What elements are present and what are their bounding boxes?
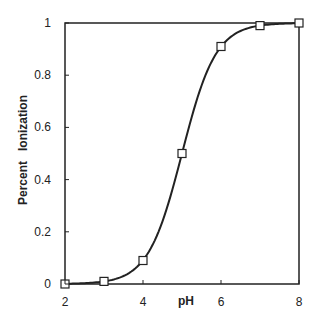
data-markers (61, 19, 303, 288)
x-tick-label: 4 (140, 295, 147, 309)
y-tick-label: 0.4 (34, 173, 51, 187)
y-tick-label: 0.6 (34, 120, 51, 134)
x-tick-label: 6 (218, 295, 225, 309)
y-tick-label: 1 (44, 16, 51, 30)
data-point-marker (139, 257, 147, 265)
data-point-marker (178, 150, 186, 158)
data-point-marker (217, 42, 225, 50)
data-point-marker (256, 22, 264, 30)
y-tick-label: 0.2 (34, 225, 51, 239)
y-tick-label: 0 (44, 277, 51, 291)
ionization-chart: 00.20.40.60.81 2468 pH Percent Ionizatio… (0, 0, 316, 325)
y-axis-ticks: 00.20.40.60.81 (34, 16, 69, 291)
x-tick-label: 2 (62, 295, 69, 309)
y-axis-label: Percent Ionization (16, 95, 30, 205)
data-point-marker (100, 277, 108, 285)
y-tick-label: 0.8 (34, 68, 51, 82)
data-point-marker (295, 19, 303, 27)
x-tick-label: 8 (296, 295, 303, 309)
x-axis-label: pH (178, 294, 194, 308)
